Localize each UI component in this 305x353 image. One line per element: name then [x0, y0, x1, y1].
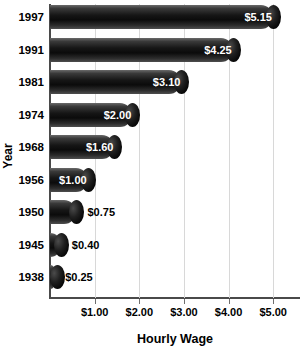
bar-row: $1.60 [50, 135, 300, 159]
bar-value-label: $1.60 [79, 135, 113, 159]
bar-row: $1.00 [50, 168, 300, 192]
bar-row: $0.75 [50, 200, 300, 224]
y-axis-category-label: 1950 [0, 200, 44, 224]
y-axis-category-label: 1945 [0, 233, 44, 257]
y-axis-category-label: 1968 [0, 135, 44, 159]
bar-row: $3.10 [50, 70, 300, 94]
bar-end-cap [69, 200, 84, 224]
bar-end-cap [50, 265, 65, 289]
bar-row: $2.00 [50, 103, 300, 127]
bar-row: $5.15 [50, 5, 300, 29]
x-axis-tick-label: $5.00 [243, 306, 303, 318]
bar-value-label: $1.00 [53, 168, 87, 192]
x-axis-title: Hourly Wage [50, 332, 300, 346]
bar-row: $0.40 [50, 233, 300, 257]
bar-value-label: $3.10 [146, 70, 180, 94]
y-axis-category-label: 1956 [0, 168, 44, 192]
x-axis-tick [229, 299, 230, 304]
bar-value-label: $0.40 [72, 233, 100, 257]
bar-value-label: $0.75 [87, 200, 115, 224]
y-axis-category-label: 1974 [0, 103, 44, 127]
y-axis-category-label: 1938 [0, 265, 44, 289]
bar-row: $0.25 [50, 265, 300, 289]
bar-value-label: $5.15 [238, 5, 272, 29]
x-axis-tick [95, 299, 96, 304]
bar-value-label: $4.25 [198, 38, 232, 62]
y-axis-category-label: 1981 [0, 70, 44, 94]
hourly-wage-bar-chart: Year Hourly Wage $1.00$2.00$3.00$4.00$5.… [0, 0, 305, 353]
x-axis-tick [273, 299, 274, 304]
bar-value-label: $0.25 [65, 265, 93, 289]
bar-row: $4.25 [50, 38, 300, 62]
bar-value-label: $2.00 [97, 103, 131, 127]
bar-end-cap [54, 233, 69, 257]
y-axis-category-label: 1997 [0, 5, 44, 29]
x-axis-tick [184, 299, 185, 304]
x-axis-tick [139, 299, 140, 304]
y-axis-category-label: 1991 [0, 38, 44, 62]
